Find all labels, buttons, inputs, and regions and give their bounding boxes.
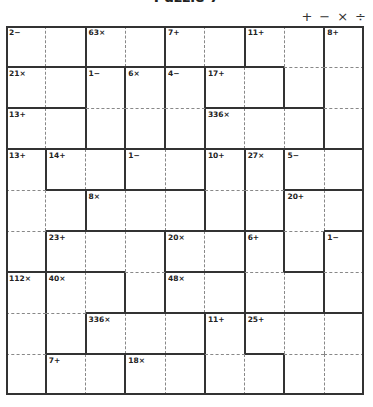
- grid-cell[interactable]: [6, 313, 46, 354]
- grid-cell[interactable]: [86, 108, 126, 149]
- cell-divider: [244, 26, 246, 67]
- cell-divider: [244, 354, 245, 395]
- grid-cell[interactable]: [46, 313, 86, 354]
- cell-divider: [324, 149, 325, 190]
- grid-cell[interactable]: [6, 231, 46, 272]
- grid-cell[interactable]: [165, 108, 205, 149]
- cell-divider: [45, 108, 46, 149]
- grid-cell[interactable]: [125, 272, 165, 313]
- cell-divider: [205, 312, 245, 314]
- cell-divider: [205, 148, 245, 150]
- grid-cell[interactable]: [324, 108, 364, 149]
- cell-divider: [204, 108, 206, 149]
- cell-divider: [86, 108, 126, 109]
- grid-cell[interactable]: [205, 272, 245, 313]
- grid-cell[interactable]: [284, 26, 324, 67]
- grid-cell[interactable]: [86, 149, 126, 190]
- cell-divider: [125, 353, 165, 355]
- cell-divider: [85, 149, 86, 190]
- cell-divider: [45, 67, 46, 108]
- cell-divider: [165, 230, 205, 232]
- grid-cell[interactable]: [125, 26, 165, 67]
- cell-divider: [204, 231, 205, 272]
- cell-divider: [284, 231, 324, 232]
- grid-cell[interactable]: [324, 67, 364, 108]
- cell-divider: [245, 107, 285, 109]
- cell-divider: [244, 190, 246, 231]
- cell-divider: [125, 66, 165, 68]
- cell-divider: [244, 231, 246, 272]
- cage-clue: 48×: [168, 274, 185, 283]
- cage-clue: 1−: [128, 151, 140, 160]
- grid-cell[interactable]: [6, 190, 46, 231]
- cage-clue: 7+: [49, 356, 61, 365]
- grid-cell[interactable]: [165, 190, 205, 231]
- cell-divider: [204, 149, 206, 190]
- cell-divider: [244, 313, 246, 354]
- grid-cell[interactable]: [324, 190, 364, 231]
- grid-cell[interactable]: [245, 108, 285, 149]
- grid-cell[interactable]: [245, 272, 285, 313]
- grid-cell[interactable]: [205, 354, 245, 395]
- cell-divider: [125, 272, 165, 273]
- grid-cell[interactable]: [125, 313, 165, 354]
- grid-cell[interactable]: [205, 231, 245, 272]
- grid-cell[interactable]: [245, 190, 285, 231]
- cell-divider: [323, 26, 325, 67]
- cage-clue: 20+: [287, 192, 304, 201]
- cell-divider: [244, 272, 246, 313]
- cage-clue: 336×: [208, 110, 230, 119]
- cell-divider: [205, 354, 245, 355]
- cell-divider: [323, 67, 325, 108]
- times-icon: ×: [337, 9, 348, 24]
- cell-divider: [125, 313, 126, 354]
- grid-cell[interactable]: [125, 108, 165, 149]
- grid-cell[interactable]: [86, 272, 126, 313]
- grid-cell[interactable]: [86, 354, 126, 395]
- cell-divider: [165, 313, 166, 354]
- grid-cell[interactable]: [46, 26, 86, 67]
- grid-cell[interactable]: [46, 190, 86, 231]
- grid-cell[interactable]: [324, 313, 364, 354]
- cell-divider: [245, 190, 285, 191]
- grid-cell[interactable]: [205, 26, 245, 67]
- grid-cell[interactable]: [125, 231, 165, 272]
- cell-divider: [283, 354, 285, 395]
- grid-cell[interactable]: [284, 231, 324, 272]
- cage-clue: 11+: [248, 28, 265, 37]
- grid-cell[interactable]: [165, 354, 205, 395]
- grid-cell[interactable]: [324, 149, 364, 190]
- cell-divider: [165, 148, 205, 150]
- cage-clue: 112×: [9, 274, 31, 283]
- grid-cell[interactable]: [324, 354, 364, 395]
- grid-cell[interactable]: [324, 272, 364, 313]
- grid-cell[interactable]: [125, 190, 165, 231]
- grid-cell[interactable]: [46, 67, 86, 108]
- cell-divider: [45, 272, 47, 313]
- grid-cell[interactable]: [245, 67, 285, 108]
- cell-divider: [86, 312, 126, 314]
- cell-divider: [125, 231, 126, 272]
- cell-divider: [165, 149, 166, 190]
- cell-divider: [125, 108, 165, 109]
- grid-cell[interactable]: [46, 108, 86, 149]
- grid-cell[interactable]: [284, 67, 324, 108]
- kenken-grid: 2−63×7+11+8+21×1−6×4−17+13+336×13+14+1−1…: [6, 26, 364, 395]
- cell-divider: [323, 108, 325, 149]
- cell-divider: [204, 272, 205, 313]
- grid-cell[interactable]: [86, 231, 126, 272]
- grid-cell[interactable]: [284, 354, 324, 395]
- cell-divider: [284, 67, 324, 68]
- cell-divider: [245, 353, 285, 355]
- grid-cell[interactable]: [245, 354, 285, 395]
- grid-cell[interactable]: [205, 190, 245, 231]
- grid-cell[interactable]: [284, 313, 324, 354]
- cage-clue: 13+: [9, 110, 26, 119]
- grid-cell[interactable]: [284, 108, 324, 149]
- cell-divider: [86, 189, 126, 191]
- cell-divider: [45, 149, 47, 190]
- grid-cell[interactable]: [165, 149, 205, 190]
- grid-cell[interactable]: [6, 354, 46, 395]
- grid-cell[interactable]: [165, 313, 205, 354]
- grid-cell[interactable]: [284, 272, 324, 313]
